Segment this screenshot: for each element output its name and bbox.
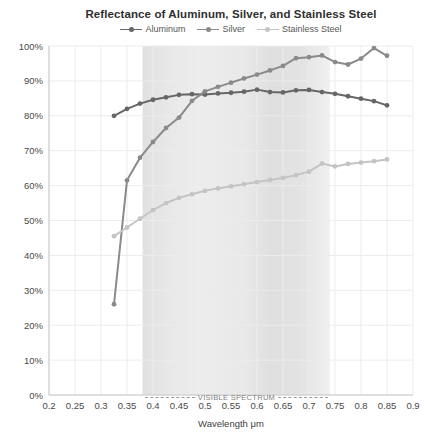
data-point-aluminum (190, 92, 195, 97)
visible-spectrum-annotation: VISIBLE SPECTRUM (142, 392, 331, 402)
data-point-aluminum (307, 88, 312, 93)
data-point-silver (307, 55, 312, 60)
data-point-silver (385, 53, 390, 58)
y-tick-label: 40% (24, 250, 44, 261)
data-point-aluminum (372, 99, 377, 104)
y-tick-label: 50% (24, 215, 44, 226)
data-point-stainless-steel (320, 161, 325, 166)
data-point-aluminum (177, 92, 182, 97)
data-point-silver (294, 56, 299, 61)
y-tick-label: 0% (29, 390, 43, 401)
data-point-aluminum (333, 91, 338, 96)
data-point-stainless-steel (268, 178, 273, 183)
data-point-silver (359, 56, 364, 61)
data-point-stainless-steel (294, 173, 299, 178)
data-point-stainless-steel (372, 159, 377, 164)
data-point-silver (333, 60, 338, 65)
data-point-silver (190, 98, 195, 103)
data-point-aluminum (229, 90, 234, 95)
dashed-line-left (145, 397, 195, 398)
data-point-stainless-steel (112, 234, 117, 239)
data-point-aluminum (385, 103, 390, 108)
data-point-silver (320, 53, 325, 58)
data-point-aluminum (125, 106, 130, 111)
data-point-aluminum (346, 94, 351, 99)
data-point-stainless-steel (255, 180, 260, 185)
data-point-stainless-steel (242, 182, 247, 187)
data-point-stainless-steel (190, 192, 195, 197)
visible-spectrum-text: VISIBLE SPECTRUM (198, 393, 275, 402)
dashed-line-right (278, 397, 328, 398)
data-point-stainless-steel (177, 195, 182, 200)
data-point-stainless-steel (346, 162, 351, 167)
data-point-aluminum (242, 89, 247, 94)
data-point-aluminum (112, 113, 117, 118)
y-tick-label: 20% (24, 320, 44, 331)
data-point-aluminum (138, 101, 143, 106)
data-point-stainless-steel (333, 164, 338, 169)
x-tick-label: 0.2 (42, 400, 55, 411)
data-point-aluminum (151, 97, 156, 102)
data-point-stainless-steel (203, 188, 208, 193)
x-tick-label: 0.85 (378, 400, 397, 411)
data-point-aluminum (359, 96, 364, 101)
x-tick-label: 0.9 (406, 400, 419, 411)
data-point-silver (216, 84, 221, 89)
data-point-aluminum (281, 90, 286, 95)
data-point-silver (164, 126, 169, 131)
x-axis-label: Wavelength μm (40, 418, 422, 429)
data-point-aluminum (320, 90, 325, 95)
data-point-silver (281, 63, 286, 68)
plot-area: 0%10%20%30%40%50%60%70%80%90%100%0.20.25… (0, 0, 439, 447)
data-point-stainless-steel (151, 208, 156, 213)
y-tick-label: 80% (24, 110, 44, 121)
data-point-silver (125, 178, 130, 183)
x-tick-label: 0.8 (354, 400, 367, 411)
data-point-silver (177, 115, 182, 120)
data-point-aluminum (268, 90, 273, 95)
data-point-aluminum (294, 88, 299, 93)
data-point-stainless-steel (125, 225, 130, 230)
data-point-silver (112, 302, 117, 307)
data-point-silver (255, 72, 260, 77)
reflectance-chart: Reflectance of Aluminum, Silver, and Sta… (0, 0, 439, 447)
data-point-stainless-steel (138, 216, 143, 221)
data-point-stainless-steel (307, 169, 312, 174)
data-point-silver (346, 62, 351, 67)
data-point-stainless-steel (385, 157, 390, 162)
y-tick-label: 70% (24, 145, 44, 156)
data-point-silver (151, 140, 156, 145)
data-point-silver (138, 155, 143, 160)
y-tick-label: 10% (24, 355, 44, 366)
x-tick-label: 0.25 (66, 400, 85, 411)
x-tick-label: 0.3 (94, 400, 107, 411)
y-tick-label: 90% (24, 75, 44, 86)
data-point-stainless-steel (229, 184, 234, 189)
data-point-silver (242, 76, 247, 81)
y-tick-label: 30% (24, 285, 44, 296)
data-point-silver (229, 80, 234, 85)
data-point-stainless-steel (281, 176, 286, 181)
data-point-aluminum (216, 91, 221, 96)
data-point-stainless-steel (164, 201, 169, 206)
data-point-silver (203, 89, 208, 94)
data-point-silver (372, 46, 377, 51)
data-point-stainless-steel (359, 160, 364, 165)
data-point-silver (268, 68, 273, 73)
data-point-aluminum (255, 87, 260, 92)
data-point-stainless-steel (216, 186, 221, 191)
y-tick-label: 60% (24, 180, 44, 191)
data-point-aluminum (164, 95, 169, 100)
x-tick-label: 0.35 (118, 400, 137, 411)
y-tick-label: 100% (19, 41, 44, 52)
